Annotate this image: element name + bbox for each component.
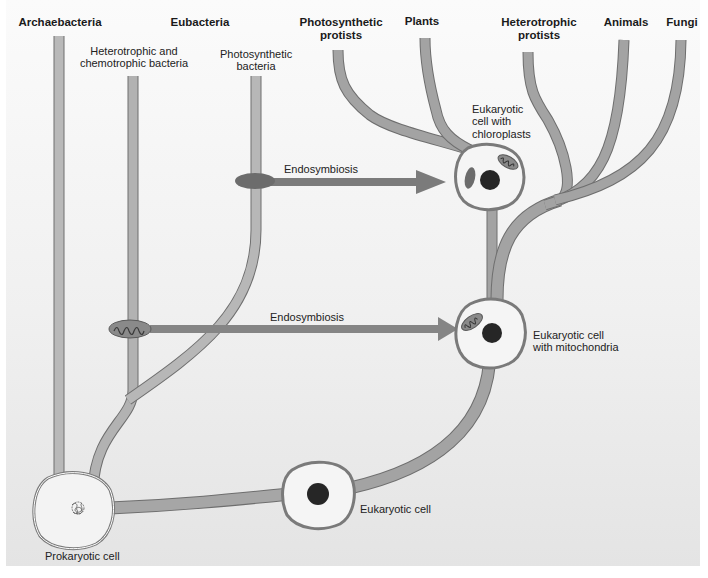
label-eubacteria: Eubacteria bbox=[165, 16, 235, 29]
label-endosymbiosis-mitochondria: Endosymbiosis bbox=[262, 311, 352, 323]
label-heterotrophic-bacteria: Heterotrophic and chemotrophic bacteria bbox=[78, 45, 190, 70]
mitochondrion-icon bbox=[109, 320, 151, 338]
nucleus-icon bbox=[482, 323, 502, 343]
eukaryotic-cell bbox=[283, 462, 355, 528]
label-endosymbiosis-chloroplast: Endosymbiosis bbox=[276, 163, 366, 175]
label-photosynthetic-bacteria: Photosynthetic bacteria bbox=[220, 48, 292, 73]
prokaryotic-cell bbox=[34, 473, 114, 549]
label-cell-with-mitochondria: Eukaryotic cell with mitochondria bbox=[533, 329, 623, 354]
label-eukaryotic-cell: Eukaryotic cell bbox=[360, 503, 450, 515]
label-fungi: Fungi bbox=[660, 16, 704, 29]
eukaryotic-cell-with-chloroplasts bbox=[456, 144, 524, 209]
endosymbiosis-diagram bbox=[0, 0, 708, 578]
cyanobacterium-icon bbox=[235, 173, 275, 189]
label-archaebacteria: Archaebacteria bbox=[14, 16, 106, 29]
label-animals: Animals bbox=[598, 16, 654, 29]
nucleus-icon bbox=[307, 483, 329, 505]
label-heterotrophic-protists: Heterotrophic protists bbox=[494, 16, 584, 42]
label-prokaryotic-cell: Prokaryotic cell bbox=[45, 550, 145, 562]
label-photosynthetic-protists: Photosynthetic protists bbox=[296, 16, 386, 42]
nucleus-icon bbox=[480, 170, 500, 190]
eukaryotic-cell-with-mitochondria bbox=[456, 299, 525, 368]
label-cell-with-chloroplasts: Eukaryotic cell with chloroplasts bbox=[472, 103, 542, 140]
label-plants: Plants bbox=[400, 15, 444, 28]
